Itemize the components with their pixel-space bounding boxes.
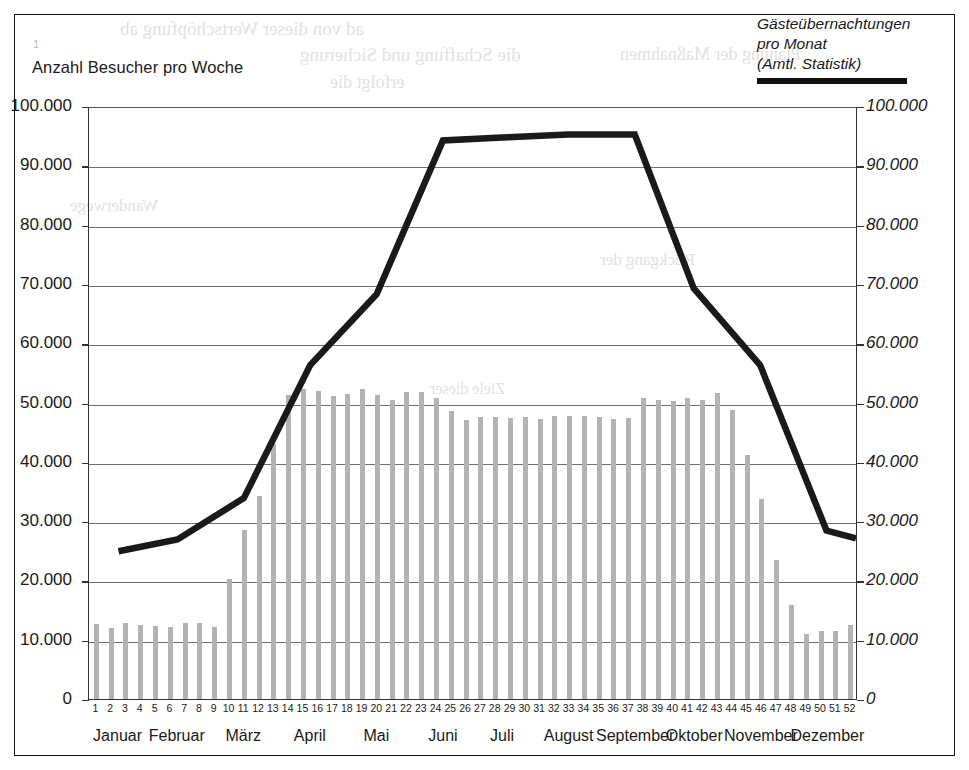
y-axis-left-tick-label: 90.000 (20, 155, 72, 175)
y-axis-right-tick-mark (857, 344, 864, 345)
y-axis-right-tick-label: 100.000 (866, 96, 927, 116)
week-label: 28 (487, 702, 503, 714)
legend-line-2: pro Monat (757, 34, 953, 54)
week-label: 35 (590, 702, 606, 714)
week-label: 29 (501, 702, 517, 714)
y-axis-right-tick-mark (857, 522, 864, 523)
week-label: 9 (206, 702, 222, 714)
y-axis-left-tick-label: 0 (63, 689, 72, 709)
week-label: 14 (280, 702, 296, 714)
y-axis-right-tick-mark (857, 166, 864, 167)
line-series-gaesteuebernachtungen (89, 108, 856, 699)
week-label: 42 (694, 702, 710, 714)
y-axis-left-tick-mark (82, 107, 89, 108)
month-label: Juli (490, 727, 514, 745)
week-label: 13 (265, 702, 281, 714)
y-axis-right-tick-label: 90.000 (866, 155, 918, 175)
week-label: 30 (516, 702, 532, 714)
y-axis-right-tick-mark (857, 404, 864, 405)
week-label: 15 (294, 702, 310, 714)
left-axis-title: Anzahl Besucher pro Woche (32, 58, 243, 77)
month-label: September (596, 727, 674, 745)
y-axis-left-tick-label: 40.000 (20, 452, 72, 472)
week-label: 1 (87, 702, 103, 714)
week-label: 48 (782, 702, 798, 714)
y-axis-left-tick-label: 80.000 (20, 215, 72, 235)
month-label: Dezember (791, 727, 865, 745)
y-axis-right-tick-label: 0 (866, 689, 875, 709)
y-axis-right-tick-mark (857, 285, 864, 286)
week-label: 47 (768, 702, 784, 714)
week-label: 51 (827, 702, 843, 714)
y-axis-left-tick-mark (82, 522, 89, 523)
y-axis-right-tick-label: 10.000 (866, 630, 918, 650)
week-label: 40 (664, 702, 680, 714)
y-axis-left-tick-mark (82, 404, 89, 405)
month-label: April (294, 727, 326, 745)
week-label: 22 (398, 702, 414, 714)
week-label: 16 (309, 702, 325, 714)
week-label: 50 (812, 702, 828, 714)
week-label: 31 (531, 702, 547, 714)
week-label: 24 (428, 702, 444, 714)
week-label: 12 (250, 702, 266, 714)
legend-line-1: Gästeübernachtungen (757, 14, 953, 34)
week-label: 25 (442, 702, 458, 714)
week-label: 2 (102, 702, 118, 714)
y-axis-right-tick-mark (857, 226, 864, 227)
week-label: 11 (235, 702, 251, 714)
x-axis-month-labels: JanuarFebruarMärzAprilMaiJuniJuliAugustS… (88, 727, 857, 751)
week-label: 8 (191, 702, 207, 714)
y-axis-right-tick-label: 80.000 (866, 215, 918, 235)
month-label: Januar (93, 727, 142, 745)
y-axis-right-tick-mark (857, 700, 864, 701)
y-axis-left-tick-mark (82, 285, 89, 286)
week-label: 5 (147, 702, 163, 714)
y-axis-left-tick-mark (82, 641, 89, 642)
month-label: Februar (149, 727, 205, 745)
week-label: 17 (324, 702, 340, 714)
week-label: 21 (383, 702, 399, 714)
y-axis-left-tick-mark (82, 344, 89, 345)
legend-line-3: (Amtl. Statistik) (757, 54, 953, 74)
week-label: 18 (339, 702, 355, 714)
y-axis-right-tick-mark (857, 581, 864, 582)
y-axis-left-tick-label: 60.000 (20, 333, 72, 353)
week-label: 10 (220, 702, 236, 714)
week-label: 7 (176, 702, 192, 714)
x-axis-week-labels: 1234567891011121314151617181920212223242… (88, 702, 857, 720)
y-axis-left-tick-label: 30.000 (20, 511, 72, 531)
y-axis-left-tick-label: 70.000 (20, 274, 72, 294)
week-label: 44 (723, 702, 739, 714)
week-label: 26 (457, 702, 473, 714)
week-label: 33 (561, 702, 577, 714)
month-label: November (724, 727, 798, 745)
week-label: 27 (472, 702, 488, 714)
month-label: März (225, 727, 261, 745)
y-axis-right-tick-label: 50.000 (866, 393, 918, 413)
footnote-marker: 1 (33, 38, 39, 50)
y-axis-left-tick-mark (82, 463, 89, 464)
y-axis-right-tick-mark (857, 463, 864, 464)
week-label: 36 (605, 702, 621, 714)
week-label: 52 (842, 702, 858, 714)
week-label: 34 (575, 702, 591, 714)
legend: Gästeübernachtungen pro Monat (Amtl. Sta… (757, 14, 953, 84)
month-label: Oktober (666, 727, 723, 745)
y-axis-right-tick-label: 30.000 (866, 511, 918, 531)
week-label: 41 (679, 702, 695, 714)
y-axis-right-tick-label: 40.000 (866, 452, 918, 472)
week-label: 19 (354, 702, 370, 714)
y-axis-left-tick-label: 50.000 (20, 393, 72, 413)
month-label: Mai (363, 727, 389, 745)
y-axis-right-tick-mark (857, 107, 864, 108)
chart-figure: 1 Anzahl Besucher pro Woche Gästeübernac… (0, 0, 969, 770)
week-label: 37 (620, 702, 636, 714)
week-label: 38 (635, 702, 651, 714)
y-axis-left-tick-mark (82, 226, 89, 227)
week-label: 4 (132, 702, 148, 714)
line-series-svg (89, 108, 856, 699)
month-label: Juni (428, 727, 457, 745)
week-label: 3 (117, 702, 133, 714)
week-label: 20 (368, 702, 384, 714)
